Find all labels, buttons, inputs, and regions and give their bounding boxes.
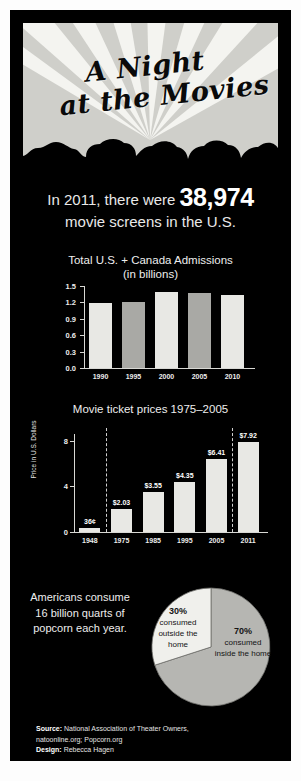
- pie-desc-outside: consumed outside the home: [148, 617, 208, 650]
- pie-pct-outside: 30%: [148, 606, 208, 617]
- chart2-bar-value-label: 36¢: [71, 518, 108, 525]
- chart2-title: Movie ticket prices 1975–2005: [22, 402, 279, 416]
- pie-desc-inside: consumed inside the home: [214, 637, 272, 659]
- pie-label-outside: 30% consumed outside the home: [148, 606, 208, 650]
- popcorn-statement: Americans consume 16 billion quarts of p…: [26, 590, 134, 637]
- chart1-title-line1: Total U.S. + Canada Admissions: [22, 253, 279, 267]
- chart1-x-tick-label: 1995: [116, 373, 151, 380]
- design-text: Rebecca Hagen: [64, 746, 114, 753]
- chart1-bar: [221, 295, 244, 368]
- chart1-y-tick: [80, 286, 84, 287]
- chart1-y-tick: [80, 302, 84, 303]
- chart2-x-tick-label: 2005: [199, 537, 234, 544]
- design-line: Design: Rebecca Hagen: [36, 745, 266, 756]
- credits-footer: Source: National Association of Theater …: [36, 724, 266, 756]
- chart2-bar-value-label: $3.55: [135, 482, 172, 489]
- chart1-y-tick: [80, 335, 84, 336]
- chart1-title-line2: (in billions): [22, 267, 279, 281]
- chart2-era-separator: [232, 428, 233, 532]
- chart1-y-tick-label: 1.5: [54, 282, 76, 291]
- headline-line2: movie screens in the U.S.: [24, 211, 277, 232]
- chart1-bar: [89, 303, 112, 368]
- chart1-x-tick-label: 2010: [215, 373, 250, 380]
- chart2-x-tick-label: 1985: [136, 537, 171, 544]
- chart1-plot-area: 0.00.30.60.91.21.519901995200020052010: [84, 286, 249, 368]
- chart1-y-tick: [80, 368, 84, 369]
- chart2-plot-area: 04836¢1948$2.031975$3.551985$4.351995$6.…: [74, 434, 264, 532]
- chart2-y-axis-title: Price in U.S. Dollars: [30, 415, 37, 485]
- chart1-x-tick-label: 2000: [149, 373, 184, 380]
- chart2-y-tick: [70, 486, 74, 487]
- chart2-bar-value-label: $6.41: [198, 449, 235, 456]
- ticket-price-bar-chart: Movie ticket prices 1975–2005 Price in U…: [22, 402, 279, 562]
- design-label: Design:: [36, 746, 62, 753]
- admissions-bar-chart: Total U.S. + Canada Admissions (in billi…: [22, 253, 279, 391]
- source-label: Source:: [36, 725, 62, 732]
- chart1-x-tick-label: 1990: [83, 373, 118, 380]
- chart2-bar: [111, 509, 132, 532]
- chart2-y-tick-label: 0: [46, 528, 68, 537]
- chart1-y-tick-label: 1.2: [54, 298, 76, 307]
- audience-silhouette: [22, 130, 279, 174]
- infographic-poster: A Night at the Movies In 2011, there wer…: [10, 10, 291, 761]
- chart2-bar: [206, 459, 227, 532]
- chart2-y-tick-label: 4: [46, 482, 68, 491]
- source-line: Source: National Association of Theater …: [36, 724, 266, 735]
- headline-stat: In 2011, there were 38,974 movie screens…: [24, 186, 277, 232]
- chart1-y-tick: [80, 352, 84, 353]
- chart2-y-tick-label: 8: [46, 437, 68, 446]
- pie-pct-inside: 70%: [214, 626, 272, 637]
- popcorn-section: Americans consume 16 billion quarts of p…: [22, 578, 279, 718]
- screen-count-number: 38,974: [180, 183, 254, 211]
- chart2-x-tick-label: 1995: [167, 537, 202, 544]
- source-text: National Association of Theater Owners,: [64, 725, 189, 732]
- chart1-bar: [188, 293, 211, 368]
- headline-line1: In 2011, there were 38,974: [24, 186, 277, 211]
- chart2-bar: [79, 528, 100, 532]
- chart2-bar: [143, 492, 164, 532]
- chart1-x-axis: [84, 368, 255, 369]
- pie-label-inside: 70% consumed inside the home: [214, 626, 272, 659]
- chart2-era-separator: [106, 428, 107, 532]
- chart2-x-tick-label: 1948: [72, 537, 107, 544]
- chart2-y-tick: [70, 532, 74, 533]
- chart1-y-tick-label: 0.3: [54, 348, 76, 357]
- chart1-y-axis: [84, 286, 85, 368]
- source-urls: natoonline.org; Popcorn.org: [36, 735, 266, 746]
- chart1-y-tick: [80, 319, 84, 320]
- chart2-bar-value-label: $4.35: [166, 472, 203, 479]
- marquee-header: A Night at the Movies: [22, 22, 279, 174]
- chart1-y-tick-label: 0.0: [54, 364, 76, 373]
- chart2-y-tick: [70, 441, 74, 442]
- chart2-bar-value-label: $7.92: [230, 432, 267, 439]
- chart2-x-axis: [74, 532, 268, 533]
- chart1-y-tick-label: 0.9: [54, 315, 76, 324]
- chart1-title: Total U.S. + Canada Admissions (in billi…: [22, 253, 279, 281]
- headline-prefix: In 2011, there were: [47, 191, 175, 208]
- chart1-x-tick-label: 2005: [182, 373, 217, 380]
- chart2-x-tick-label: 2011: [231, 537, 266, 544]
- chart2-bar: [174, 482, 195, 532]
- chart1-y-tick-label: 0.6: [54, 331, 76, 340]
- poster-title: A Night at the Movies: [22, 26, 279, 136]
- chart2-x-tick-label: 1975: [104, 537, 139, 544]
- chart1-bar: [155, 292, 178, 368]
- chart2-bar: [238, 442, 259, 532]
- chart1-bar: [122, 302, 145, 368]
- chart2-bar-value-label: $2.03: [103, 499, 140, 506]
